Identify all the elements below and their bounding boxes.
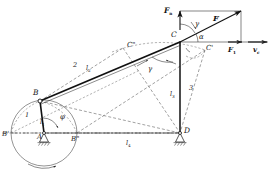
label-link2-number: 2	[72, 61, 77, 69]
label-joint-b: B	[32, 88, 39, 97]
angle-arc-cprime	[186, 48, 190, 52]
label-link3-length: l3	[170, 90, 175, 99]
label-joint-c: C	[171, 30, 177, 39]
label-velocity-vc: vc	[253, 45, 260, 55]
support-a-hatch-2	[42, 143, 44, 146]
support-a-hatch-1	[39, 143, 41, 146]
joint-d-pin	[179, 132, 182, 135]
link2-group	[40, 42, 181, 104]
angle-arc-alpha	[196, 34, 198, 42]
label-angle-alpha: α	[199, 33, 204, 41]
link2-coupler-edge	[41, 45, 181, 104]
support-a-hatch-3	[45, 143, 47, 146]
crank-swing-arc	[40, 101, 77, 133]
diagram-canvas: Fn F F1 vc γ α γ φ C C" C' B B'	[0, 0, 277, 179]
label-joint-a: A	[36, 133, 42, 141]
label-angle-gamma-lower: γ	[148, 65, 153, 73]
joint-b-pin	[38, 99, 42, 103]
angle-arc-gamma-upper	[180, 24, 195, 33]
link2-coupler-bc	[40, 42, 180, 101]
support-d-hatch-3	[181, 143, 183, 146]
label-force-ft: F1	[227, 45, 236, 55]
label-joint-d: D	[183, 126, 190, 135]
construction-bdprime-cprime	[77, 50, 205, 133]
label-joint-b-prime: B'	[1, 130, 9, 138]
label-link2-length: l2	[86, 64, 91, 73]
label-link4-length: l4	[126, 139, 131, 148]
cprime-marker-arc	[186, 51, 205, 58]
support-d-hatch-4	[184, 143, 186, 146]
label-angle-gamma-upper: γ	[195, 20, 200, 28]
support-d-hatch-1	[175, 143, 177, 146]
support-d-hatch-2	[178, 143, 180, 146]
labels-group: Fn F F1 vc γ α γ φ C C" C' B B'	[1, 6, 260, 148]
force-diagram-group	[180, 11, 268, 42]
label-link1-number: 1	[25, 111, 29, 119]
label-force-f: F	[212, 13, 220, 23]
link1-group	[38, 99, 44, 133]
label-link3-number: 3	[189, 84, 193, 92]
label-angle-phi: φ	[60, 113, 65, 121]
angle-arc-phi	[43, 118, 58, 128]
label-joint-c-prime: C'	[206, 44, 213, 52]
label-joint-b-double-prime: B"	[70, 135, 79, 143]
label-force-fn: Fn	[163, 6, 172, 16]
support-a-hatch-4	[48, 143, 50, 146]
joint-a-pin	[43, 132, 46, 135]
label-joint-c-double-prime: C"	[127, 41, 136, 49]
mechanism-figure: Fn F F1 vc γ α γ φ C C" C' B B'	[0, 0, 277, 179]
